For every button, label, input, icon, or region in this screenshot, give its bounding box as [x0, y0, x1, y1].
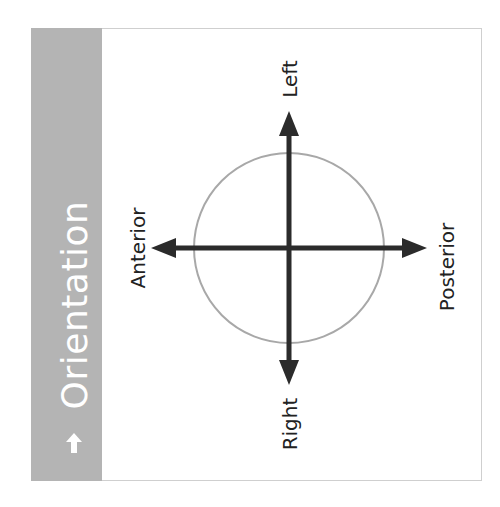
label-posterior: Posterior [435, 223, 459, 311]
label-right: Right [278, 398, 302, 451]
arrow-head-left-icon [151, 238, 176, 258]
arrow-head-right-icon [402, 238, 427, 258]
label-anterior: Anterior [126, 208, 150, 289]
arrow-head-up-icon [279, 111, 299, 136]
label-left: Left [278, 60, 302, 98]
orientation-diagram [0, 0, 500, 507]
arrow-head-down-icon [279, 360, 299, 385]
